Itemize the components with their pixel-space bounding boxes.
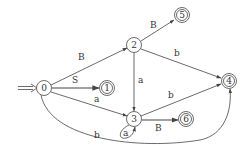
edge-label-3-3: a: [123, 128, 129, 138]
edge-3-4: [141, 84, 221, 116]
svg-text:2: 2: [131, 40, 137, 50]
state-3: 3: [127, 112, 142, 127]
edge-2-4: [141, 49, 221, 78]
svg-text:3: 3: [131, 114, 137, 124]
start-arrow: [18, 84, 37, 92]
edge-label-0-3: a: [94, 94, 100, 104]
edge-0-2: [51, 48, 127, 85]
svg-text:5: 5: [179, 10, 185, 20]
edge-label-0-2: B: [78, 52, 85, 62]
edge-label-2-4: b: [174, 48, 180, 58]
state-6: 6: [179, 112, 194, 127]
svg-text:0: 0: [41, 83, 47, 93]
edge-label-3-4: b: [168, 90, 174, 100]
state-4: 4: [222, 74, 237, 89]
svg-text:6: 6: [183, 114, 189, 124]
edge-label-2-5: B: [150, 20, 157, 30]
svg-text:4: 4: [226, 76, 232, 86]
edge-0-3: [51, 92, 127, 116]
edge-label-0-4: b: [94, 130, 100, 140]
automaton-diagram: B S a b B b a a b B 0 1 2 3 4 5: [0, 0, 246, 157]
edge-label-2-3: a: [138, 75, 144, 85]
state-2: 2: [127, 38, 142, 53]
state-5: 5: [175, 8, 190, 23]
state-0: 0: [37, 81, 52, 96]
svg-text:1: 1: [104, 83, 110, 93]
edge-2-5: [141, 20, 174, 41]
edge-label-3-6: B: [155, 123, 162, 133]
state-1: 1: [100, 81, 115, 96]
edge-label-0-1: S: [72, 75, 78, 85]
